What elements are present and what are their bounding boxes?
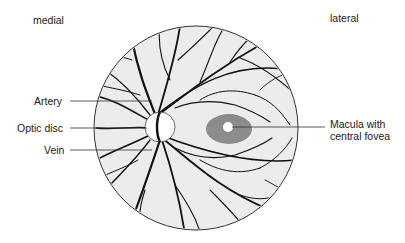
optic-disc: [145, 112, 175, 142]
macula-label: Macula with central fovea: [330, 118, 390, 142]
artery-label: Artery: [34, 95, 62, 107]
fovea: [223, 122, 233, 132]
medial-label: medial: [33, 14, 64, 26]
optic-disc-label: Optic disc: [17, 122, 63, 134]
lateral-label: lateral: [330, 12, 359, 24]
macula-label-line2: central fovea: [330, 130, 390, 142]
macula-label-line1: Macula with: [330, 118, 390, 130]
vein-label: Vein: [44, 144, 64, 156]
